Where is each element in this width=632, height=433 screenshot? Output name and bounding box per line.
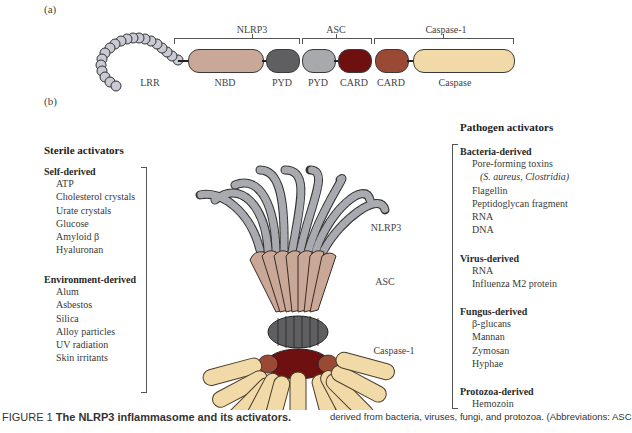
activator-item: Urate crystals [44,204,135,217]
bracket-tick-caspase1 [443,34,444,38]
activator-item: Amyloid β [44,230,135,243]
bracket-tick-asc [336,34,337,38]
activator-item: Hyaluronan [44,243,135,256]
activator-item: Hemozoin [460,397,534,410]
panel-a-label: (a) [44,3,56,15]
inflammasome-complex-illustration [180,110,440,410]
figure-caption: FIGURE 1 The NLRP3 inflammasome and its … [2,411,291,423]
group-heading: Fungus-derived [460,306,527,317]
activator-item: Asbestos [44,298,136,311]
activator-item: Mannan [460,330,527,343]
activator-item: Silica [44,312,136,325]
activator-item: Skin irritants [44,351,136,364]
group-heading: Self-derived [44,166,135,177]
activator-item: ATP [44,177,135,190]
activator-item: Influenza M2 protein [460,277,557,290]
activator-item: Zymosan [460,344,527,357]
pathogen-activators-title: Pathogen activators [460,121,553,133]
sterile-group-self: Self-derived ATP Cholesterol crystals Ur… [44,166,135,257]
bracket-nlrp3 [174,38,300,44]
activator-item: UV radiation [44,338,136,351]
activator-item: Hyphae [460,357,527,370]
group-heading: Virus-derived [460,253,557,264]
group-heading: Protozoa-derived [460,386,534,397]
complex-label-nlrp3: NLRP3 [366,222,406,233]
activator-item: Pore-forming toxins [460,157,569,170]
pathogen-group-virus: Virus-derived RNA Influenza M2 protein [460,253,557,291]
complex-label-asc: ASC [370,276,400,287]
domain-label-card: CARD [336,77,372,88]
activator-item: Cholesterol crystals [44,190,135,203]
activator-item: DNA [460,223,569,236]
activator-item-note: (S. aureus, Clostridia) [460,170,569,183]
caspase-domain [413,49,515,73]
panel-b-label: (b) [44,95,57,107]
activator-item: RNA [460,210,569,223]
activator-item: Alum [44,285,136,298]
sterile-bracket [141,167,147,393]
pathogen-bracket [452,144,458,409]
nbd-domain [188,49,264,73]
group-heading: Environment-derived [44,274,136,285]
caption-prefix: FIGURE 1 [2,411,56,423]
group-label-caspase1: Caspase-1 [416,24,476,35]
sterile-activators-title: Sterile activators [44,144,124,156]
asc-card-domain [338,49,372,73]
asc-pyd-domain [302,49,336,73]
activator-item: Glucose [44,217,135,230]
caption-title: The NLRP3 inflammasome and its activator… [56,411,291,423]
pathogen-group-bacteria: Bacteria-derived Pore-forming toxins (S.… [460,146,569,237]
domain-label-pyd: PYD [302,77,334,88]
domain-label-pyd: PYD [266,77,298,88]
activator-item: RNA [460,264,557,277]
bracket-tick-nlrp3 [252,34,253,38]
nlrp3-pyd-domain [266,49,300,73]
domain-label-card: CARD [373,77,409,88]
activator-item: β-glucans [460,317,527,330]
activator-item: Alloy particles [44,325,136,338]
group-heading: Bacteria-derived [460,146,569,157]
complex-label-caspase1: Caspase-1 [364,345,424,356]
activator-item: Flagellin [460,184,569,197]
domain-label-lrr: LRR [135,77,165,88]
sterile-group-environment: Environment-derived Alum Asbestos Silica… [44,274,136,365]
activator-item: Peptidoglycan fragment [460,197,569,210]
caption-continuation: derived from bacteria, viruses, fungi, a… [330,411,632,422]
bracket-asc [302,38,372,44]
caspase-card-domain [375,49,409,73]
bracket-caspase1 [374,38,514,44]
pathogen-group-fungus: Fungus-derived β-glucans Mannan Zymosan … [460,306,527,370]
domain-label-nbd: NBD [208,77,242,88]
domain-label-caspase: Caspase [430,77,480,88]
pathogen-group-protozoa: Protozoa-derived Hemozoin [460,386,534,410]
